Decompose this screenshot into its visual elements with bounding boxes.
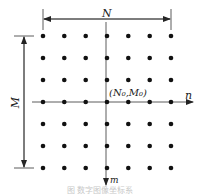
pixel-dot <box>105 56 110 61</box>
pixel-dot <box>147 122 152 127</box>
pixel-dot <box>83 34 88 39</box>
pixel-dot <box>147 100 152 105</box>
pixel-dot <box>41 34 46 39</box>
pixel-dot <box>126 100 131 105</box>
pixel-dot <box>41 78 46 83</box>
figure-caption: 图 数字图像坐标系 <box>0 184 200 195</box>
pixel-dot <box>62 122 67 127</box>
pixel-dot <box>83 56 88 61</box>
pixel-dot <box>169 166 174 171</box>
pixel-dot <box>62 56 67 61</box>
pixel-dot <box>83 122 88 127</box>
pixel-dot <box>105 122 110 127</box>
pixel-dot <box>83 100 88 105</box>
pixel-dot <box>41 100 46 105</box>
pixel-dot <box>169 34 174 39</box>
pixel-dot <box>83 78 88 83</box>
pixel-dot <box>62 34 67 39</box>
width-label: N <box>102 8 112 19</box>
pixel-dot <box>147 144 152 149</box>
pixel-dot <box>126 166 131 171</box>
pixel-dot <box>62 166 67 171</box>
pixel-dot <box>105 34 110 39</box>
pixel-dot <box>105 144 110 149</box>
pixel-dot <box>126 56 131 61</box>
pixel-dot <box>169 56 174 61</box>
image-coordinate-diagram: N M (N₀,M₀) n m 图 数字图像坐标系 <box>0 0 200 196</box>
pixel-dot <box>62 144 67 149</box>
pixel-dot <box>41 122 46 127</box>
pixel-dot <box>169 100 174 105</box>
pixel-dot <box>105 78 110 83</box>
pixel-dot <box>83 166 88 171</box>
height-label: M <box>10 97 21 108</box>
pixel-dot <box>147 78 152 83</box>
pixel-dot <box>169 122 174 127</box>
pixel-dot <box>147 56 152 61</box>
pixel-dot <box>41 56 46 61</box>
pixel-dot <box>169 144 174 149</box>
pixel-dot <box>83 144 88 149</box>
pixel-dot <box>41 144 46 149</box>
pixel-dot <box>126 122 131 127</box>
pixel-dot <box>105 100 110 105</box>
pixel-dot <box>62 78 67 83</box>
pixel-dot <box>147 166 152 171</box>
pixel-dot <box>126 34 131 39</box>
pixel-dot <box>147 34 152 39</box>
grid-drawing <box>0 0 200 196</box>
x-axis-label: n <box>185 90 192 101</box>
pixel-dot <box>126 78 131 83</box>
pixel-dot <box>169 78 174 83</box>
pixel-dot <box>41 166 46 171</box>
pixel-dot <box>126 144 131 149</box>
pixel-dot <box>105 166 110 171</box>
origin-label: (N₀,M₀) <box>109 88 147 98</box>
pixel-dot <box>62 100 67 105</box>
